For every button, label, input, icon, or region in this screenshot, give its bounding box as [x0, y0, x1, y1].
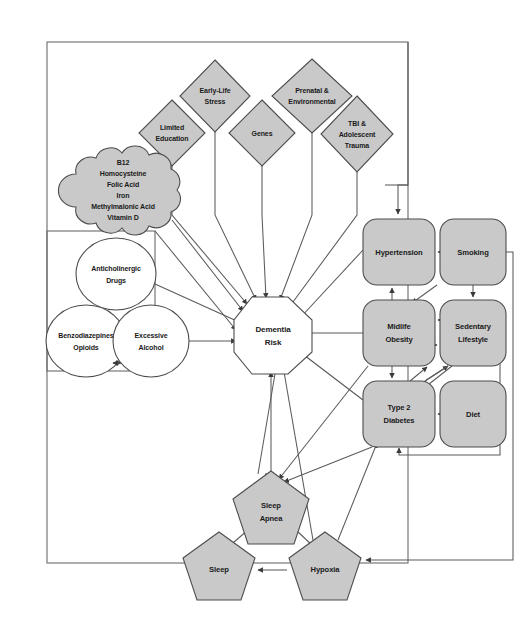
- cloud-label-6: Vitamin D: [107, 214, 138, 221]
- dementia-risk-label-2: Risk: [265, 338, 282, 347]
- diamond-tbi-label-2: Adolescent: [339, 131, 377, 138]
- cloud-label-2: Homocysteine: [100, 170, 147, 178]
- ellipse-benzodiazepines-label-2: Opioids: [73, 344, 99, 352]
- edge-hypertension-to-risk: [300, 250, 363, 318]
- dementia-risk-diagram: Limited Education Early-Life Stress Gene…: [0, 0, 520, 624]
- diamond-genes[interactable]: Genes: [229, 100, 295, 166]
- ellipse-anticholinergic-label-2: Drugs: [106, 277, 126, 285]
- dementia-risk-label-1: Dementia: [255, 325, 291, 334]
- box-sedentary-lifestyle-shape: [440, 300, 506, 366]
- edge-diabetes-to-sleep-apnea: [284, 447, 372, 482]
- pentagon-sleep-label: Sleep: [209, 565, 229, 574]
- diamond-limited-education-label-2: Education: [156, 135, 189, 142]
- pentagon-sleep-apnea[interactable]: Sleep Apnea: [233, 471, 309, 544]
- diamond-early-life-stress-label-1: Early-Life: [200, 87, 231, 95]
- diamond-genes-label: Genes: [252, 130, 273, 137]
- edge-genes-to-risk: [262, 166, 266, 298]
- ellipse-excessive-alcohol[interactable]: Excessive Alcohol: [113, 305, 189, 377]
- diamond-prenatal-label-2: Environmental: [288, 98, 335, 105]
- ellipse-excessive-alcohol-label-2: Alcohol: [139, 344, 164, 351]
- box-smoking[interactable]: Smoking: [440, 219, 506, 285]
- ellipse-excessive-alcohol-label-1: Excessive: [135, 332, 168, 339]
- pentagon-sleep[interactable]: Sleep: [183, 532, 255, 600]
- box-type-2-diabetes[interactable]: Type 2 Diabetes: [363, 381, 435, 447]
- box-sedentary-lifestyle[interactable]: Sedentary Lifestyle: [440, 300, 506, 366]
- box-sedentary-label-1: Sedentary: [455, 322, 492, 331]
- cloud-label-4: Iron: [117, 192, 130, 199]
- edge-diabetes-diag-to-obesity: [410, 367, 427, 381]
- pentagon-sleep-apnea-label-2: Apnea: [260, 514, 284, 523]
- box-midlife-obesity-label-1: Midlife: [387, 322, 410, 331]
- pentagon-hypoxia[interactable]: Hypoxia: [289, 532, 361, 600]
- edge-frame-to-hypertension: [398, 42, 408, 214]
- box-hypertension-label: Hypertension: [375, 248, 423, 257]
- ellipse-anticholinergic-shape: [76, 238, 156, 310]
- edge-early-life-stress-to-risk: [215, 132, 256, 300]
- edge-sleep-apnea-to-risk-alt: [258, 368, 276, 474]
- diamond-early-life-stress-label-2: Stress: [205, 98, 226, 105]
- ellipse-anticholinergic-drugs[interactable]: Anticholinergic Drugs: [76, 238, 156, 310]
- box-diabetes-label-1: Type 2: [388, 403, 411, 412]
- pentagon-sleep-apnea-label-1: Sleep: [261, 501, 281, 510]
- box-diabetes-label-2: Diabetes: [384, 416, 415, 425]
- pentagon-hypoxia-label: Hypoxia: [311, 565, 341, 574]
- edge-tbi-to-risk: [290, 172, 357, 306]
- ellipse-excessive-alcohol-shape: [113, 305, 189, 377]
- cloud-label-3: Folic Acid: [107, 181, 139, 188]
- box-smoking-label: Smoking: [457, 248, 489, 257]
- box-midlife-obesity-label-2: Obesity: [385, 335, 413, 344]
- box-sedentary-label-2: Lifestyle: [458, 335, 488, 344]
- diamond-tbi-label-1: TBI &: [348, 120, 366, 127]
- diamond-tbi-label-3: Trauma: [345, 142, 370, 149]
- cloud-label-5: Methylmalonic Acid: [91, 203, 155, 211]
- node-dementia-risk[interactable]: Dementia Risk: [234, 297, 312, 374]
- diagram-canvas: Limited Education Early-Life Stress Gene…: [0, 0, 520, 624]
- edge-diabetes-to-risk: [300, 352, 363, 400]
- box-midlife-obesity-shape: [363, 300, 435, 366]
- ellipse-anticholinergic-label-1: Anticholinergic: [91, 265, 141, 273]
- dementia-risk-shape: [234, 297, 312, 374]
- box-type-2-diabetes-shape: [363, 381, 435, 447]
- diamond-prenatal-label-1: Prenatal &: [295, 87, 329, 94]
- edge-hypoxia-to-diabetes: [338, 443, 377, 540]
- cloud-label-1: B12: [117, 159, 130, 166]
- box-midlife-obesity[interactable]: Midlife Obesity: [363, 300, 435, 366]
- box-diet[interactable]: Diet: [440, 381, 506, 447]
- diamond-limited-education-label-1: Limited: [160, 124, 184, 131]
- edge-prenatal-to-risk: [280, 133, 312, 300]
- ellipse-benzodiazepines-label-1: Benzodiazepines: [58, 332, 113, 340]
- cloud-nutrient-panel[interactable]: B12 Homocysteine Folic Acid Iron Methylm…: [58, 146, 180, 235]
- box-hypertension[interactable]: Hypertension: [363, 219, 435, 285]
- box-diet-label: Diet: [466, 410, 481, 419]
